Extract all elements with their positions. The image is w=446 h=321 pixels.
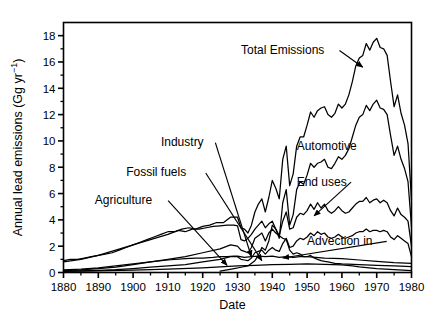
x-tick-label: 1910 <box>155 281 181 293</box>
y-tick-label: 8 <box>49 162 55 174</box>
y-tick-label: 10 <box>43 135 56 147</box>
annotation-agriculture: Agriculture <box>95 193 153 207</box>
annotation-industry: Industry <box>161 135 204 149</box>
annotation-arrow <box>215 143 251 257</box>
x-tick-label: 1940 <box>260 281 286 293</box>
x-tick-label: 1960 <box>329 281 355 293</box>
y-tick-label: 18 <box>43 30 56 42</box>
y-tick-label: 14 <box>43 83 56 95</box>
y-tick-label: 2 <box>49 241 55 253</box>
y-axis-title: Annual lead emissions (Gg yr−1) <box>9 59 25 237</box>
x-tick-label: 1900 <box>120 281 146 293</box>
x-tick-label: 1920 <box>190 281 216 293</box>
annotation-automotive: Automotive <box>297 139 357 153</box>
y-tick-label: 16 <box>43 56 56 68</box>
annotation-end-uses: End uses <box>297 175 347 189</box>
annotation-fossil-fuels: Fossil fuels <box>126 165 186 179</box>
y-tick-label: 0 <box>49 267 55 279</box>
x-tick-label: 1930 <box>225 281 251 293</box>
chart-svg: 0246810121416181880189019001910192019301… <box>0 0 446 321</box>
x-tick-label: 1890 <box>86 281 112 293</box>
annotation-total-emissions: Total Emissions <box>241 43 324 57</box>
y-tick-label: 12 <box>43 109 56 121</box>
y-tick-label: 6 <box>49 188 55 200</box>
x-tick-label: 1970 <box>364 281 390 293</box>
y-tick-label: 4 <box>49 214 56 226</box>
annotation-arrow <box>168 201 227 266</box>
x-tick-label: 1950 <box>294 281 320 293</box>
x-axis-title: Date <box>219 298 245 312</box>
lead-emissions-chart-figure: 0246810121416181880189019001910192019301… <box>0 0 446 321</box>
x-tick-label: 1880 <box>51 281 77 293</box>
x-tick-label: 1980 <box>399 281 425 293</box>
